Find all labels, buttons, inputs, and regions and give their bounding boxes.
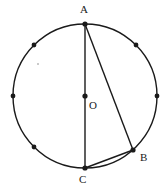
point-label-A: A xyxy=(80,4,88,15)
point-label-B: B xyxy=(140,152,147,163)
geometry-canvas xyxy=(0,0,165,193)
geometry-figure: A B C O xyxy=(0,0,165,193)
point-C-dot xyxy=(82,165,87,170)
marker-faint-interior-icon xyxy=(37,63,39,65)
marker-east-icon xyxy=(155,94,160,99)
marker-north-east-icon xyxy=(134,43,139,48)
point-label-O: O xyxy=(89,100,97,111)
marker-north-west-icon xyxy=(32,43,37,48)
point-A-dot xyxy=(82,21,87,26)
point-label-C: C xyxy=(79,174,86,185)
point-B-dot xyxy=(130,147,135,152)
point-O-dot xyxy=(82,93,87,98)
marker-south-west-icon xyxy=(32,145,37,150)
marker-west-icon xyxy=(11,94,16,99)
